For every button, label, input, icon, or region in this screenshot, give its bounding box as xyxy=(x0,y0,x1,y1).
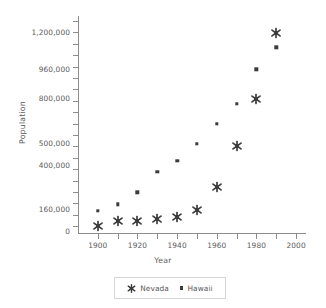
x-axis-title: Year xyxy=(0,256,326,265)
data-point-nevada-1910 xyxy=(112,215,123,226)
population-scatter-chart: 0160,000400,000500,000800,000960,0001,20… xyxy=(0,0,326,308)
legend-item-hawaii[interactable]: Hawaii xyxy=(180,284,213,293)
data-point-hawaii-1920 xyxy=(136,191,139,194)
data-point-nevada-1970 xyxy=(231,141,242,152)
data-point-hawaii-1900 xyxy=(96,209,99,212)
y-axis-tick-label: 160,000 xyxy=(0,206,70,214)
legend-label-nevada: Nevada xyxy=(140,284,169,293)
x-axis-tick-label: 1960 xyxy=(197,241,237,250)
data-point-hawaii-1910 xyxy=(116,202,119,205)
x-axis-tick xyxy=(296,234,297,239)
y-axis-tick-label: 0 xyxy=(0,228,70,236)
x-axis-tick xyxy=(217,234,218,239)
y-axis-tick-label: 960,000 xyxy=(0,66,70,74)
data-point-nevada-1950 xyxy=(191,204,202,215)
asterisk-marker-icon xyxy=(127,284,136,293)
data-point-hawaii-1930 xyxy=(156,170,159,173)
data-point-hawaii-1960 xyxy=(215,122,218,125)
x-axis-tick xyxy=(197,234,198,239)
x-axis-tick-label: 1920 xyxy=(117,241,157,250)
data-point-hawaii-1980 xyxy=(255,68,258,71)
x-axis-tick xyxy=(118,234,119,239)
x-axis-tick xyxy=(256,234,257,239)
y-axis-tick-label: 1,200,000 xyxy=(0,29,70,37)
x-axis-tick-label: 1900 xyxy=(78,241,118,250)
data-point-hawaii-1940 xyxy=(175,159,178,162)
data-point-nevada-1980 xyxy=(251,93,262,104)
data-point-nevada-1940 xyxy=(172,211,183,222)
chart-legend: Nevada Hawaii xyxy=(114,277,226,299)
legend-label-hawaii: Hawaii xyxy=(187,284,212,293)
data-point-nevada-1900 xyxy=(92,221,103,232)
x-axis-tick-label: 1980 xyxy=(236,241,276,250)
x-axis-tick xyxy=(276,234,277,239)
x-axis-tick-label: 1940 xyxy=(157,241,197,250)
x-axis-tick xyxy=(237,234,238,239)
x-axis-tick xyxy=(98,234,99,239)
data-point-hawaii-1970 xyxy=(235,102,238,105)
plot-area xyxy=(78,16,300,234)
data-point-hawaii-1990 xyxy=(275,45,278,48)
data-point-nevada-1920 xyxy=(132,216,143,227)
data-point-nevada-1990 xyxy=(271,28,282,39)
x-axis-tick xyxy=(157,234,158,239)
y-axis-tick-label: 400,000 xyxy=(0,162,70,170)
x-axis-tick xyxy=(177,234,178,239)
x-axis-tick xyxy=(137,234,138,239)
y-axis-tick-label: 500,000 xyxy=(0,140,70,148)
data-point-nevada-1930 xyxy=(152,214,163,225)
x-axis-tick-label: 2000 xyxy=(276,241,316,250)
data-point-hawaii-1950 xyxy=(195,142,198,145)
data-point-nevada-1960 xyxy=(211,182,222,193)
y-axis-tick-label: 800,000 xyxy=(0,95,70,103)
y-axis-title: Population xyxy=(18,83,27,163)
legend-item-nevada[interactable]: Nevada xyxy=(127,284,169,293)
square-marker-icon xyxy=(180,286,183,289)
